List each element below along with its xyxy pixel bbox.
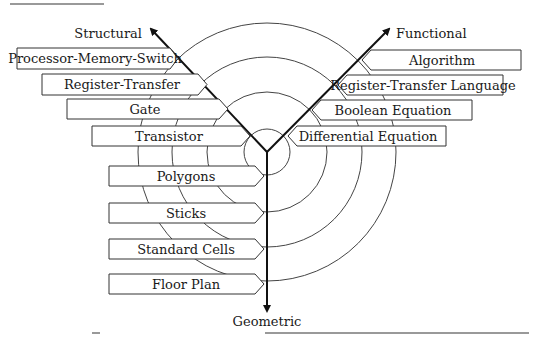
functional-level-label: Differential Equation — [299, 129, 438, 144]
structural-level-register-transfer: Register-Transfer — [42, 74, 207, 95]
functional-level-algorithm: Algorithm — [362, 50, 521, 70]
geometric-level-polygons: Polygons — [109, 166, 264, 186]
structural-level-label: Register-Transfer — [64, 77, 181, 92]
geometric-level-label: Standard Cells — [137, 242, 235, 257]
structural-level-label: Processor-Memory-Switch — [8, 51, 182, 66]
structural-level-label: Transistor — [135, 129, 204, 144]
geometric-axis-label: Geometric — [233, 314, 302, 329]
geometric-level-floor-plan: Floor Plan — [109, 274, 264, 294]
functional-level-label: Boolean Equation — [335, 103, 452, 118]
geometric-level-standard-cells: Standard Cells — [109, 239, 264, 259]
geometric-level-sticks: Sticks — [109, 203, 264, 223]
geometric-level-label: Floor Plan — [152, 277, 221, 292]
geometric-level-label: Polygons — [157, 169, 216, 184]
y-chart-diagram: Structural Functional Geometric Processo… — [0, 0, 540, 347]
structural-level-label: Gate — [129, 102, 160, 117]
functional-level-label: Algorithm — [408, 53, 475, 68]
structural-level-processor-memory-switch: Processor-Memory-Switch — [8, 48, 182, 69]
functional-level-differential-equation: Differential Equation — [288, 126, 446, 146]
functional-level-register-transfer-language: Register-Transfer Language — [330, 75, 516, 95]
structural-level-transistor: Transistor — [92, 126, 250, 146]
functional-level-label: Register-Transfer Language — [330, 78, 516, 93]
geometric-level-label: Sticks — [166, 206, 206, 221]
structural-level-gate: Gate — [67, 99, 228, 119]
structural-axis-label: Structural — [74, 26, 142, 41]
functional-axis-label: Functional — [396, 26, 467, 41]
functional-level-boolean-equation: Boolean Equation — [312, 100, 472, 120]
